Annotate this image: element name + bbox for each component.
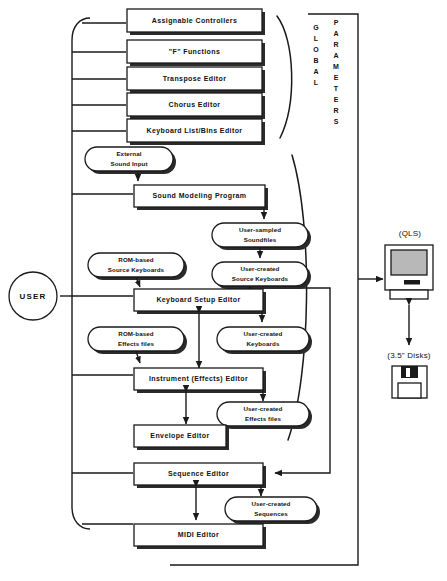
box-midi-editor[interactable]: MIDI Editor [134,524,266,549]
user-node: USER [9,272,57,320]
node-line1: User-created [240,265,279,272]
box-label: Envelope Editor [150,432,209,440]
node-external-sound-input[interactable]: External Sound Input [85,147,176,174]
svg-text:O: O [313,46,319,53]
global-parameters-label: G L O B A L P A R A M E T E R S [313,19,339,125]
node-line1: User-created [243,405,282,412]
box-keyboard-setup-editor[interactable]: Keyboard Setup Editor [134,289,266,314]
box-envelope-editor[interactable]: Envelope Editor [134,425,229,450]
box-chorus-editor[interactable]: Chorus Editor [127,93,265,119]
node-line2: Sound Input [110,160,147,167]
box-instrument-effects-editor[interactable]: Instrument (Effects) Editor [134,368,266,393]
qls-label: (QLS) [399,229,421,238]
svg-text:R: R [333,107,338,114]
svg-text:R: R [333,41,338,48]
device-floppy-disks[interactable]: (3.5" Disks) [387,351,431,398]
node-line1: ROM-based [118,330,153,337]
box-assignable-controllers[interactable]: Assignable Controllers [127,9,265,35]
svg-text:A: A [333,30,338,37]
svg-text:E: E [334,96,339,103]
editors-group-brace [288,155,307,440]
box-label: MIDI Editor [178,531,219,538]
box-sequence-editor[interactable]: Sequence Editor [134,463,266,488]
svg-text:B: B [313,57,318,64]
node-rom-based-source-keyboards[interactable]: ROM-based Source Keyboards [88,253,187,280]
node-line1: User-created [251,500,290,507]
svg-text:S: S [334,118,339,125]
architecture-diagram-svg: USER G L O B A L P A R A M E T E R S [0,0,447,581]
box-transpose-editor[interactable]: Transpose Editor [127,67,265,93]
box-keyboard-list-bins-editor[interactable]: Keyboard List/Bins Editor [127,119,265,145]
svg-text:P: P [334,19,339,26]
node-line2: Sequences [254,510,288,517]
box-label: Sequence Editor [168,470,229,478]
node-line1: User-created [243,330,282,337]
node-user-created-effects-files[interactable]: User-created Effects files [217,402,312,429]
node-user-created-sequences[interactable]: User-created Sequences [225,497,320,524]
setup-to-sequence-path [263,288,330,473]
svg-text:M: M [333,63,339,70]
box-label: Keyboard List/Bins Editor [147,127,243,135]
node-line2: Effects files [245,415,281,422]
svg-text:E: E [334,74,339,81]
node-line2: Source Keyboards [232,275,289,282]
disks-label: (3.5" Disks) [387,351,431,360]
box-f-functions[interactable]: "F" Functions [127,40,265,66]
svg-text:L: L [314,35,319,42]
node-line1: User-sampled [239,226,281,233]
box-label: Chorus Editor [169,101,221,108]
user-label: USER [19,292,46,301]
svg-text:A: A [333,52,338,59]
node-line2: Keyboards [247,340,280,347]
svg-text:G: G [313,24,319,31]
node-user-created-source-keyboards[interactable]: User-created Source Keyboards [212,262,311,289]
node-rom-based-effects-files[interactable]: ROM-based Effects files [88,327,187,354]
node-user-sampled-soundfiles[interactable]: User-sampled Soundfiles [212,223,311,250]
node-line1: ROM-based [118,256,153,263]
box-sound-modeling-program[interactable]: Sound Modeling Program [134,185,268,210]
node-line1: External [116,150,141,157]
box-label: Keyboard Setup Editor [156,296,240,304]
node-line2: Source Keyboards [108,266,165,273]
device-qls-computer[interactable]: (QLS) [385,229,433,299]
svg-text:L: L [314,79,319,86]
diagram-canvas: USER G L O B A L P A R A M E T E R S [0,0,447,581]
svg-text:A: A [313,68,318,75]
node-user-created-keyboards[interactable]: User-created Keyboards [217,327,312,354]
box-label: Instrument (Effects) Editor [149,375,248,383]
user-spine [72,18,90,529]
box-label: Sound Modeling Program [153,192,247,200]
node-line2: Soundfiles [244,236,277,243]
box-label: Assignable Controllers [152,17,237,25]
node-line2: Effects files [118,340,154,347]
computer-icon [385,245,433,299]
global-parameters-brace [277,16,292,138]
floppy-disk-icon [392,366,427,398]
box-label: "F" Functions [169,48,221,55]
box-label: Transpose Editor [163,75,227,83]
svg-text:T: T [334,85,339,92]
